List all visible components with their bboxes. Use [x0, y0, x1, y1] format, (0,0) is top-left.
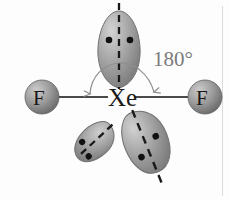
- fluorine-right-label: F: [196, 86, 208, 111]
- lone-pair-top: [98, 3, 140, 89]
- fluorine-left-label: F: [33, 86, 45, 111]
- electron-dot: [106, 37, 113, 44]
- bond-angle-label: 180°: [153, 47, 193, 72]
- molecular-diagram-canvas: F F Xe 180°: [0, 0, 230, 200]
- lone-pair-lower-left: [67, 114, 123, 169]
- xenon-center-label: Xe: [108, 84, 137, 112]
- electron-dot: [127, 37, 134, 44]
- lone-pair-lower-right: [113, 102, 184, 193]
